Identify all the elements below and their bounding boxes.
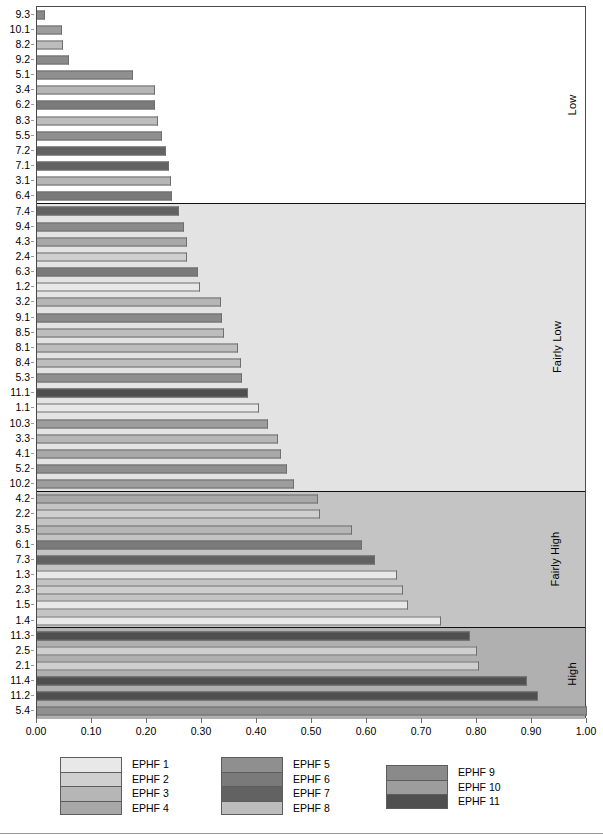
bar-5.1[interactable] — [37, 71, 133, 80]
bar-1.4[interactable] — [37, 616, 441, 625]
bar-row — [37, 174, 585, 189]
category-tick — [31, 271, 34, 272]
category-tick — [31, 195, 34, 196]
bar-4.3[interactable] — [37, 237, 187, 246]
bar-8.4[interactable] — [37, 358, 241, 367]
bar-row — [37, 522, 585, 537]
bar-row — [37, 568, 585, 583]
bar-11.3[interactable] — [37, 631, 470, 640]
legend-item-ephf-10[interactable]: EPHF 10 — [386, 780, 501, 795]
value-tick — [201, 718, 202, 723]
legend-item-ephf-1[interactable]: EPHF 1 — [60, 757, 169, 772]
bar-1.2[interactable] — [37, 283, 200, 292]
category-tick — [31, 513, 34, 514]
bar-3.2[interactable] — [37, 298, 221, 307]
category-tick — [31, 120, 34, 121]
category-label-2.5: 2.5 — [15, 644, 30, 656]
value-tick — [586, 718, 587, 723]
bar-row — [37, 401, 585, 416]
bar-7.1[interactable] — [37, 162, 169, 171]
bar-11.2[interactable] — [37, 692, 538, 701]
bar-6.4[interactable] — [37, 192, 172, 201]
category-tick — [31, 407, 34, 408]
legend-item-ephf-2[interactable]: EPHF 2 — [60, 772, 169, 787]
bar-row — [37, 280, 585, 295]
legend-item-ephf-9[interactable]: EPHF 9 — [386, 765, 501, 780]
legend-item-ephf-7[interactable]: EPHF 7 — [221, 786, 330, 801]
bar-9.2[interactable] — [37, 56, 69, 65]
bar-9.3[interactable] — [37, 10, 45, 19]
bar-row — [37, 477, 585, 492]
legend-group-2: EPHF 5EPHF 6EPHF 7EPHF 8 — [221, 757, 330, 815]
bar-8.5[interactable] — [37, 328, 224, 337]
value-tick-label: 0.40 — [246, 725, 266, 737]
category-label-4.1: 4.1 — [15, 447, 30, 459]
bar-11.4[interactable] — [37, 677, 527, 686]
legend-item-ephf-8[interactable]: EPHF 8 — [221, 801, 330, 816]
bar-6.1[interactable] — [37, 540, 362, 549]
bar-10.2[interactable] — [37, 480, 294, 489]
legend-item-ephf-3[interactable]: EPHF 3 — [60, 786, 169, 801]
legend-swatch-10 — [386, 780, 448, 795]
value-tick — [531, 718, 532, 723]
bar-7.2[interactable] — [37, 146, 166, 155]
bar-2.1[interactable] — [37, 661, 479, 670]
bar-1.1[interactable] — [37, 404, 259, 413]
category-tick — [31, 589, 34, 590]
bar-2.4[interactable] — [37, 252, 187, 261]
bar-2.5[interactable] — [37, 646, 477, 655]
bar-row — [37, 325, 585, 340]
bar-8.1[interactable] — [37, 343, 238, 352]
category-tick — [31, 650, 34, 651]
bar-3.4[interactable] — [37, 86, 155, 95]
bar-10.1[interactable] — [37, 25, 62, 34]
bar-row — [37, 583, 585, 598]
bar-3.5[interactable] — [37, 525, 352, 534]
category-tick — [31, 695, 34, 696]
bar-9.4[interactable] — [37, 222, 184, 231]
bar-row — [37, 265, 585, 280]
bar-2.2[interactable] — [37, 510, 320, 519]
bar-5.2[interactable] — [37, 465, 287, 474]
bar-6.2[interactable] — [37, 101, 155, 110]
category-label-7.4: 7.4 — [15, 205, 30, 217]
category-tick — [31, 89, 34, 90]
bar-4.1[interactable] — [37, 449, 281, 458]
category-tick — [31, 59, 34, 60]
bar-8.2[interactable] — [37, 40, 63, 49]
legend-label: EPHF 10 — [458, 781, 501, 793]
legend-swatch-11 — [386, 794, 448, 809]
bar-3.3[interactable] — [37, 434, 278, 443]
category-tick — [31, 180, 34, 181]
bar-10.3[interactable] — [37, 419, 268, 428]
category-tick — [31, 241, 34, 242]
category-tick — [31, 665, 34, 666]
bar-4.2[interactable] — [37, 495, 318, 504]
bar-3.1[interactable] — [37, 177, 171, 186]
bar-1.5[interactable] — [37, 601, 408, 610]
legend-item-ephf-4[interactable]: EPHF 4 — [60, 801, 169, 816]
category-tick — [31, 710, 34, 711]
category-label-6.3: 6.3 — [15, 265, 30, 277]
legend-item-ephf-11[interactable]: EPHF 11 — [386, 794, 501, 809]
bar-8.3[interactable] — [37, 116, 158, 125]
bar-7.4[interactable] — [37, 207, 179, 216]
bar-row — [37, 295, 585, 310]
category-label-9.4: 9.4 — [15, 220, 30, 232]
bar-1.3[interactable] — [37, 571, 397, 580]
category-label-5.2: 5.2 — [15, 462, 30, 474]
category-label-1.5: 1.5 — [15, 598, 30, 610]
bar-5.4[interactable] — [37, 707, 587, 716]
legend-item-ephf-5[interactable]: EPHF 5 — [221, 757, 330, 772]
bar-2.3[interactable] — [37, 586, 403, 595]
bar-7.3[interactable] — [37, 555, 375, 564]
legend-swatch-9 — [386, 765, 448, 780]
legend-item-ephf-6[interactable]: EPHF 6 — [221, 772, 330, 787]
bar-6.3[interactable] — [37, 268, 198, 277]
bar-5.3[interactable] — [37, 374, 242, 383]
category-label-11.4: 11.4 — [10, 674, 30, 686]
bar-9.1[interactable] — [37, 313, 222, 322]
bar-11.1[interactable] — [37, 389, 248, 398]
category-label-9.3: 9.3 — [15, 8, 30, 20]
bar-5.5[interactable] — [37, 131, 162, 140]
